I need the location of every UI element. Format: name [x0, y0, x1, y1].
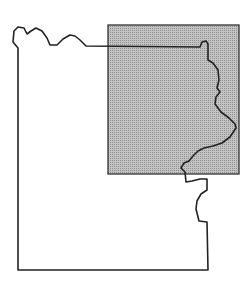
locator-map: [0, 0, 249, 297]
